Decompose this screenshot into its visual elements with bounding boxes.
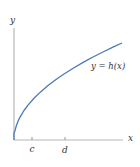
tick-label-d: d bbox=[62, 145, 68, 155]
graph: y x y = h(x) c d bbox=[0, 0, 140, 167]
tick-label-c: c bbox=[30, 144, 35, 154]
y-axis-label: y bbox=[9, 15, 16, 25]
curve-label: y = h(x) bbox=[90, 61, 125, 71]
curve-h bbox=[14, 43, 122, 140]
x-axis-label: x bbox=[128, 133, 133, 143]
